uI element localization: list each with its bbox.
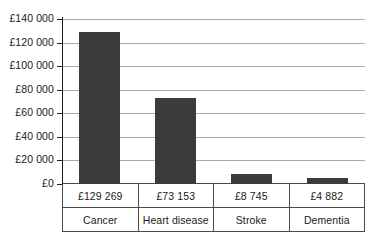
category-table: £129 269 Cancer £73 153 Heart disease £8… <box>62 184 365 232</box>
table-column-stroke: £8 745 Stroke <box>214 184 290 231</box>
value-label-heart-disease: £73 153 <box>139 184 214 208</box>
y-axis-label-60000: £60 000 <box>15 107 54 118</box>
value-label-cancer: £129 269 <box>63 184 138 208</box>
y-axis-label-140000: £140 000 <box>9 13 54 24</box>
bars-layer <box>62 19 365 184</box>
bar-heart-disease <box>155 98 196 184</box>
category-label-heart-disease: Heart disease <box>139 208 214 231</box>
table-column-heart-disease: £73 153 Heart disease <box>139 184 215 231</box>
category-label-stroke: Stroke <box>214 208 289 231</box>
category-label-cancer: Cancer <box>63 208 138 231</box>
bar-chart: £140 000 £120 000 £100 000 £80 000 £60 0… <box>0 0 375 236</box>
table-column-dementia: £4 882 Dementia <box>290 184 365 231</box>
y-axis-label-20000: £20 000 <box>15 154 54 165</box>
bar-cancer <box>79 32 120 184</box>
category-label-dementia: Dementia <box>290 208 365 231</box>
value-label-stroke: £8 745 <box>214 184 289 208</box>
y-axis-label-120000: £120 000 <box>9 37 54 48</box>
y-axis-label-40000: £40 000 <box>15 131 54 142</box>
y-axis-label-0: £0 <box>42 178 54 189</box>
value-label-dementia: £4 882 <box>290 184 365 208</box>
y-axis-label-80000: £80 000 <box>15 84 54 95</box>
bar-stroke <box>231 174 272 184</box>
table-column-cancer: £129 269 Cancer <box>63 184 139 231</box>
y-axis-label-100000: £100 000 <box>9 60 54 71</box>
